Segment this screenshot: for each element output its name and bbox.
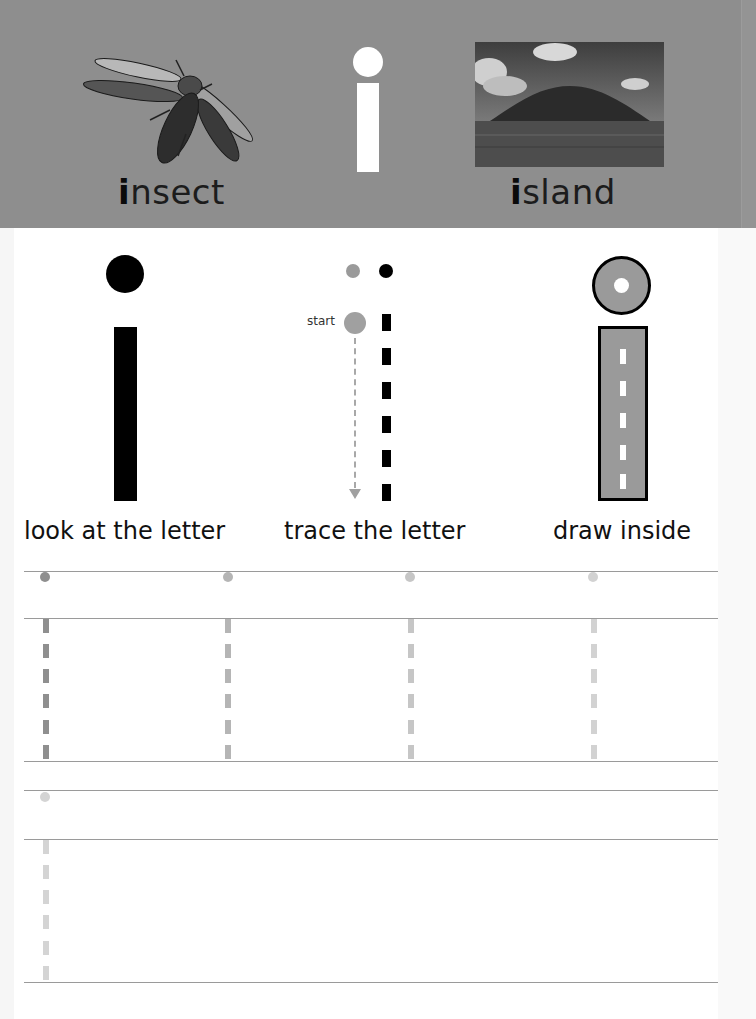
start-label: start [307,314,335,328]
header-band: insect island [0,0,756,228]
word-rest: nsect [130,172,225,212]
right-margin [718,228,756,1019]
practice-line-base [24,761,718,762]
caption-draw: draw inside [553,517,691,545]
practice-line-base [24,982,718,983]
island-picture [475,42,664,167]
trace-letter-dot [379,264,393,278]
word-rest: sland [522,172,616,212]
practice-row-2[interactable] [24,790,718,982]
word-island: island [510,172,616,212]
left-margin [0,228,14,1019]
look-letter-stem [114,327,137,501]
trace-letter-stem[interactable] [382,314,391,501]
stroke-direction-line [354,338,358,488]
start-point-icon [344,312,366,334]
header-letter-dot [353,47,383,77]
arrow-down-icon [349,489,361,499]
caption-look: look at the letter [24,517,225,545]
insect-picture [78,48,268,168]
practice-row-1[interactable] [24,571,718,761]
draw-inside-stem[interactable] [598,326,648,501]
trace-start-dot-marker [346,264,360,278]
caption-trace: trace the letter [284,517,465,545]
word-first-letter: i [510,172,522,212]
word-first-letter: i [118,172,130,212]
look-letter-dot [106,255,144,293]
header-letter-stem [357,83,379,172]
page-edge [741,0,756,228]
dot-center [614,278,629,293]
draw-inside-dot[interactable] [592,256,651,315]
word-insect: insect [118,172,225,212]
